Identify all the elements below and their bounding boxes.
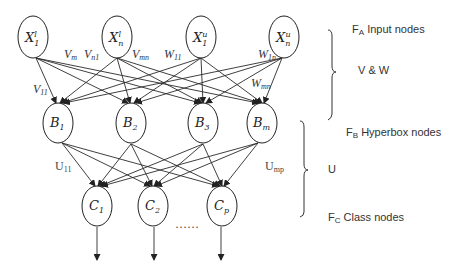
hyperbox-node-b3: B3 — [188, 103, 218, 143]
network-diagram: X1l Xnl X1u Xnu B1 B2 B3 Bm C1 C2 Cp — [0, 0, 451, 271]
weight-label-w11: W11 — [164, 47, 181, 62]
weight-label-vm: Vm — [64, 47, 77, 62]
label-v-and-w: V & W — [358, 64, 390, 76]
weight-label-vmn: Vmn — [132, 47, 149, 62]
hyperbox-node-b1: B1 — [43, 103, 73, 143]
class-node-c2: C2 — [138, 186, 168, 226]
label-input-nodes: FA Input nodes — [352, 23, 425, 37]
brace-u — [300, 121, 308, 217]
class-node-cp: Cp — [207, 186, 237, 226]
output-arrows — [97, 227, 221, 260]
hyperbox-to-class-edges — [62, 143, 258, 186]
input-node-x1u: X1u — [186, 16, 216, 58]
weight-label-wmn: Wmn — [251, 76, 271, 91]
brace-vw — [328, 30, 336, 120]
weight-label-vn1: Vn1 — [84, 47, 99, 62]
weight-label-u11: U11 — [55, 159, 71, 174]
weight-label-v11: V11 — [33, 82, 48, 97]
input-node-xnl: Xnl — [102, 16, 132, 58]
weight-label-ump: Ump — [265, 159, 284, 174]
hyperbox-node-b2: B2 — [116, 103, 146, 143]
class-node-c1: C1 — [82, 186, 112, 226]
input-to-hyperbox-edges — [36, 58, 282, 103]
label-hyperbox-nodes: FB Hyperbox nodes — [346, 126, 442, 140]
hyperbox-node-bm: Bm — [247, 103, 277, 143]
class-ellipsis: …… — [175, 217, 199, 231]
label-class-nodes: FC Class nodes — [328, 211, 405, 225]
label-u: U — [328, 163, 336, 175]
input-node-x1l: X1l — [18, 16, 48, 58]
input-node-xnu: Xnu — [269, 16, 299, 58]
